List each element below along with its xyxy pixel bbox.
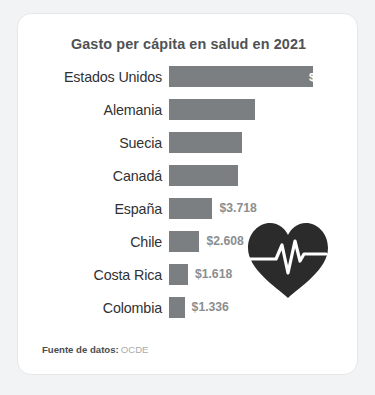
bar-value-label: $7.383 <box>258 99 293 120</box>
bar-row: España$3.718 <box>18 195 358 222</box>
bar-track: $3.718 <box>169 195 358 222</box>
bar-category-label: Suecia <box>18 135 169 151</box>
bar-value-label: $3.718 <box>219 198 256 219</box>
bar[interactable] <box>169 198 212 219</box>
bar[interactable] <box>169 297 185 318</box>
bar-category-label: España <box>18 201 169 217</box>
bar[interactable] <box>169 231 199 252</box>
bar-track: $6.262 <box>169 129 358 156</box>
bar-track: $1.618 <box>169 261 358 288</box>
bar-category-label: Chile <box>18 234 169 250</box>
bar-category-label: Estados Unidos <box>18 69 169 85</box>
bar[interactable] <box>169 132 242 153</box>
chart-canvas: Gasto per cápita en salud en 2021 Estado… <box>0 0 375 395</box>
bar-track: $7.383 <box>169 96 358 123</box>
bar-track: $1.336 <box>169 294 358 321</box>
bar-row: Chile$2.608 <box>18 228 358 255</box>
bar[interactable] <box>169 264 188 285</box>
bar-row: Colombia$1.336 <box>18 294 358 321</box>
bar[interactable] <box>169 165 238 186</box>
bar-value-label: $6.262 <box>245 132 280 153</box>
bar-value-label: $1.336 <box>192 297 229 318</box>
bar-value-label: $2.608 <box>206 231 243 252</box>
bar-value-label: $5.905 <box>241 165 276 186</box>
chart-title: Gasto per cápita en salud en 2021 <box>18 36 358 52</box>
bar-category-label: Colombia <box>18 300 169 316</box>
bar-category-label: Canadá <box>18 168 169 184</box>
bar-track: $2.608 <box>169 228 358 255</box>
data-source-value: OCDE <box>121 344 149 355</box>
bar[interactable] <box>169 66 313 87</box>
bar-category-label: Costa Rica <box>18 267 169 283</box>
chart-card: Gasto per cápita en salud en 2021 Estado… <box>17 13 358 375</box>
bar-chart-plot: Estados Unidos$12.318Alemania$7.383Sueci… <box>18 59 358 331</box>
data-source-label: Fuente de datos: <box>42 344 119 355</box>
bar-value-label: $12.318 <box>309 66 351 87</box>
bar[interactable] <box>169 99 255 120</box>
bar-row: Estados Unidos$12.318 <box>18 63 358 90</box>
bar-track: $12.318 <box>169 63 358 90</box>
bar-track: $5.905 <box>169 162 358 189</box>
bar-row: Costa Rica$1.618 <box>18 261 358 288</box>
bar-category-label: Alemania <box>18 102 169 118</box>
bar-row: Canadá$5.905 <box>18 162 358 189</box>
bar-row: Alemania$7.383 <box>18 96 358 123</box>
bar-row: Suecia$6.262 <box>18 129 358 156</box>
bar-value-label: $1.618 <box>195 264 232 285</box>
data-source-footer: Fuente de datos:OCDE <box>42 344 148 355</box>
